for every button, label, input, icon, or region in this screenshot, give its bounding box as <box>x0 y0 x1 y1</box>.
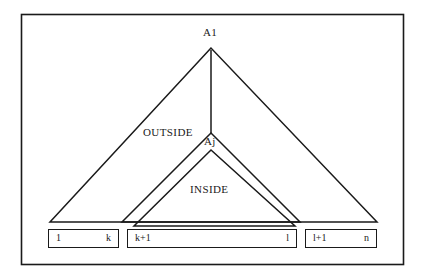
node-label-aj: Aj <box>204 135 216 147</box>
figure-root: A1 Aj OUTSIDE INSIDE 1 k k+1 l l+1 n <box>0 0 425 277</box>
range-start-label: 1 <box>56 232 61 243</box>
range-end-label: k <box>106 232 111 243</box>
range-box-1-k: 1 k <box>48 229 119 248</box>
node-label-a1: A1 <box>203 26 217 38</box>
range-end-label: l <box>286 232 289 243</box>
range-start-label: l+1 <box>313 232 326 243</box>
range-box-k1-l: k+1 l <box>127 229 297 248</box>
range-box-l1-n: l+1 n <box>305 229 377 248</box>
range-end-label: n <box>364 232 369 243</box>
range-start-label: k+1 <box>135 232 151 243</box>
region-label-outside: OUTSIDE <box>143 126 193 138</box>
region-label-inside: INSIDE <box>190 183 228 195</box>
